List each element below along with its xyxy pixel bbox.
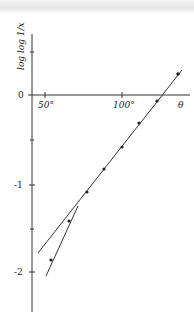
fit-line-upper bbox=[38, 70, 182, 253]
x-tick-label-50: 50° bbox=[38, 100, 54, 110]
y-tick-label-m2: -2 bbox=[14, 267, 23, 277]
y-axis-label: log log 1/x bbox=[16, 22, 26, 70]
x-axis-label: θ bbox=[178, 100, 184, 110]
chart: 50° 100° θ 0 -1 -2 log log 1/x bbox=[0, 0, 194, 323]
y-tick-label-0: 0 bbox=[18, 90, 24, 100]
y-tick-label-m1: -1 bbox=[14, 180, 23, 190]
fit-line-steep bbox=[46, 206, 78, 276]
x-tick-label-100: 100° bbox=[113, 100, 135, 110]
